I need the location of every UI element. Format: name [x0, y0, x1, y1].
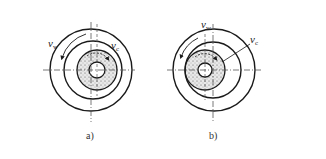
caption-b: b): [209, 130, 217, 141]
leader-line-vc-b: [222, 44, 250, 62]
caption-a: a): [86, 130, 94, 141]
panel-a-diagram: [43, 22, 135, 122]
panel-b-diagram: [167, 24, 262, 123]
label-vc-a: vc: [111, 40, 119, 53]
label-vc-b: vc: [250, 34, 258, 47]
label-vw-a: vw: [48, 38, 58, 51]
label-vw-b: vw: [201, 19, 211, 32]
diagram-canvas: [0, 0, 326, 159]
